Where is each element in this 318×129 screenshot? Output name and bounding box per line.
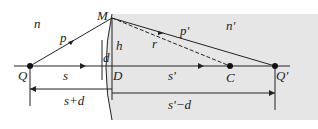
ray-p-arrow (68, 40, 74, 45)
optics-diagram: n n' M p p' r h d D Q Q' C s s' s+d s'−d (0, 0, 318, 129)
label-c: C (226, 70, 235, 85)
point-q (27, 63, 33, 69)
label-s-plus-d: s+d (64, 93, 85, 108)
label-p: p (59, 30, 67, 45)
label-n-prime: n' (226, 18, 236, 33)
label-s-prime-minus-d: s'−d (168, 97, 192, 112)
label-s: s (63, 68, 68, 83)
dimension-s-plus-d-arrow (30, 86, 36, 92)
label-m: M (96, 8, 109, 23)
axis-arrow-s (80, 63, 86, 69)
medium-n-prime-region (106, 14, 318, 120)
label-n: n (34, 16, 41, 31)
label-s-prime: s' (168, 68, 176, 83)
label-q: Q (18, 68, 28, 83)
point-c (227, 63, 233, 69)
label-d-point: D (112, 68, 123, 83)
label-p-prime: p' (179, 23, 190, 38)
label-h: h (116, 38, 123, 53)
label-d: d (103, 50, 110, 65)
label-q-prime: Q' (276, 68, 288, 83)
